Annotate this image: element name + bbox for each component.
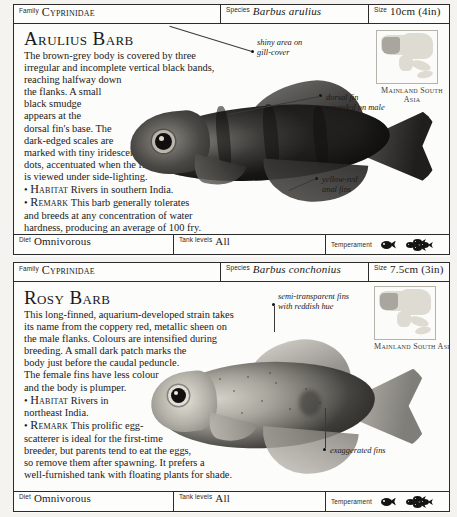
entry-body: Arulius Barb The brown-grey body is cove… (13, 24, 450, 235)
diet-value: Omnivorous (34, 492, 91, 504)
temperament-icon-group (379, 238, 435, 251)
size-value: 10cm (4in) (390, 5, 441, 17)
desc-line: breeding. A small dark patch marks the (24, 345, 186, 356)
diet-value: Omnivorous (34, 235, 91, 247)
annotation-exaggerated-fins: exaggerated fins (330, 446, 386, 456)
footer-cell-temperament: Temperament (326, 235, 449, 254)
desc-line: irregular and incomplete vertical black … (24, 62, 214, 73)
tank-levels-value: All (215, 235, 230, 247)
footer-cell-tank-levels: Tank levels All (174, 492, 326, 511)
header-cell-size: Size 10cm (4in) (369, 5, 449, 23)
tank-levels-label: Tank levels (179, 493, 212, 500)
species-label: Species (226, 264, 250, 271)
desc-line: its name from the coppery red, metallic … (24, 321, 227, 332)
desc-line: appears at the (24, 110, 81, 121)
entry-footer: Diet Omnivorous Tank levels All Temperam… (13, 492, 450, 512)
species-label: Species (226, 6, 250, 13)
header-cell-family: Family Cyprinidae (14, 263, 221, 281)
habitat-keyword: Habitat (30, 393, 68, 407)
desc-line: body just before the caudal peduncle. (24, 357, 179, 368)
habitat-entry: • Habitat Rivers in southern India. (24, 183, 449, 196)
remark-line: well-furnished tank with floating plants… (24, 469, 232, 480)
entry-footer: Diet Omnivorous Tank levels All Temperam… (13, 235, 450, 255)
leader-line-exaggerated-fins (325, 408, 326, 448)
annotation-dorsal-fin: dorsal fin extended on male (326, 93, 385, 113)
temperament-icon-group (379, 495, 435, 508)
desc-line: is viewed under side-lighting. (24, 171, 148, 182)
remark-line: This barb generally tolerates (71, 197, 190, 208)
leader-line-semi-transparent-fins (274, 306, 275, 332)
dorsal-fin (243, 335, 351, 388)
desc-line: dorsal fin's base. The (24, 123, 112, 134)
diet-label: Diet (19, 493, 31, 500)
description-paragraph: This long-finned, aquarium-developed str… (24, 309, 248, 394)
remark-keyword: Remark (30, 195, 68, 209)
footer-cell-temperament: Temperament (326, 492, 449, 511)
family-value: Cyprinidae (42, 5, 95, 20)
entry-header: Family Cyprinidae Species Barbus conchon… (13, 262, 450, 282)
header-cell-species: Species Barbus arulius (221, 5, 369, 23)
desc-line: The brown-grey body is covered by three (24, 50, 196, 61)
diet-label: Diet (19, 236, 31, 243)
single-fish-icon (379, 496, 396, 508)
habitat-line: Rivers in (71, 395, 109, 406)
remark-entry: • Remark This barb generally tolerates a… (24, 196, 449, 234)
remark-line: so remove them after spawning. It prefer… (24, 457, 205, 468)
family-label: Family (19, 265, 39, 272)
book-page: Family Cyprinidae Species Barbus arulius… (0, 0, 457, 517)
map-landmass-archipelago (415, 326, 432, 336)
annotation-gill-cover: shiny area on gill-cover (257, 38, 302, 58)
desc-line: The female fins have less colour (24, 369, 159, 380)
map-caption: Mainland South Asia (376, 86, 448, 104)
entry-header: Family Cyprinidae Species Barbus arulius… (13, 4, 450, 24)
header-cell-family: Family Cyprinidae (14, 5, 221, 23)
desc-line: This long-finned, aquarium-developed str… (24, 309, 234, 320)
map-frame (374, 286, 436, 340)
footer-cell-tank-levels: Tank levels All (174, 235, 326, 254)
desc-line: the flanks. A small (24, 86, 101, 97)
annotation-semi-transparent-fins: semi-transparent fins with reddish hue (278, 292, 349, 312)
map-range-highlight (382, 37, 400, 54)
habitat-line: northeast India. (24, 407, 89, 418)
description-paragraph: The brown-grey body is covered by three … (24, 50, 246, 183)
size-label: Size (374, 264, 387, 271)
school-of-fish-icon (405, 238, 435, 251)
footer-cell-diet: Diet Omnivorous (14, 492, 174, 511)
species-value: Barbus conchonius (253, 263, 341, 275)
temperament-label: Temperament (331, 498, 372, 505)
header-cell-size: Size 7.5cm (3in) (369, 263, 449, 281)
remark-line: hardness, producing an average of 100 fr… (24, 222, 201, 233)
desc-line: the male flanks. Colours are intensified… (24, 333, 217, 344)
habitat-text: Rivers in southern India. (71, 184, 174, 195)
desc-line: and the body is plumper. (24, 382, 126, 393)
desc-line: reaching halfway down (24, 74, 122, 85)
remark-keyword: Remark (30, 418, 68, 432)
remark-line: and breeds at any concentration of water (24, 210, 192, 221)
entry-body: Rosy Barb This long-finned, aquarium-dev… (13, 282, 450, 492)
map-frame (376, 30, 438, 84)
body-band-2 (261, 104, 281, 173)
footer-cell-diet: Diet Omnivorous (14, 235, 174, 254)
map-landmass-archipelago (417, 70, 434, 80)
annotation-anal-fins: yellow-red anal fins (322, 175, 358, 195)
temperament-label: Temperament (331, 241, 372, 248)
desc-line: black smudge (24, 98, 81, 109)
size-value: 7.5cm (3in) (390, 263, 444, 275)
body-band-3 (311, 106, 329, 169)
school-of-fish-icon (405, 495, 435, 508)
family-label: Family (19, 7, 39, 14)
remark-line: breeder, but parents tend to eat the egg… (24, 445, 191, 456)
caudal-fin (360, 104, 440, 188)
desc-line: dark-edged scales are (24, 135, 113, 146)
distribution-map: Mainland South Asia (374, 286, 450, 351)
map-caption: Mainland South Asia (374, 342, 450, 351)
tank-levels-value: All (215, 492, 230, 504)
distribution-map: Mainland South Asia (376, 30, 448, 104)
header-cell-species: Species Barbus conchonius (221, 263, 369, 281)
remark-line: This prolific egg- (71, 420, 144, 431)
species-entry-arulius-barb: Family Cyprinidae Species Barbus arulius… (13, 4, 450, 257)
map-range-highlight (380, 293, 398, 310)
species-entry-rosy-barb: Family Cyprinidae Species Barbus conchon… (13, 262, 450, 513)
desc-line: dots, accentuated when the fish (24, 159, 154, 170)
habitat-keyword: Habitat (30, 182, 68, 196)
